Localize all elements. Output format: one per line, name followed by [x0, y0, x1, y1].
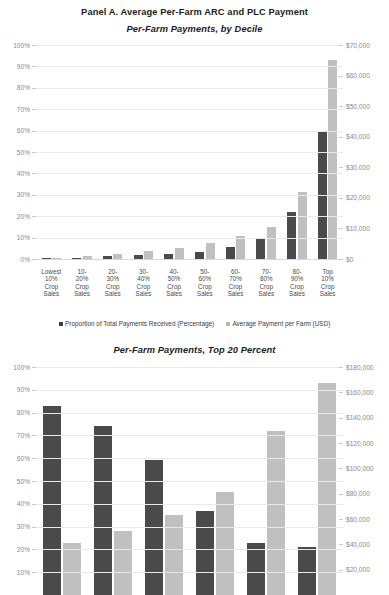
x-axis-category-line: 80%	[251, 275, 282, 282]
x-axis-category-line: Crop	[282, 283, 313, 290]
y-axis-tick-mark	[32, 45, 36, 46]
x-axis-category-line: Sales	[190, 290, 221, 297]
y2-axis-tick-label: $120,000	[346, 440, 389, 447]
y2-axis-tick-label: $50,000	[346, 103, 389, 110]
x-axis-category-line: Crop	[97, 283, 128, 290]
y2-axis-tick-label: $20,000	[346, 194, 389, 201]
gridline	[36, 173, 343, 174]
x-axis-category-line: Sales	[220, 290, 251, 297]
x-axis-category-line: Crop	[251, 283, 282, 290]
x-axis-category-line: 60-	[220, 268, 251, 275]
x-axis-category-line: Sales	[282, 290, 313, 297]
y2-axis-tick-mark	[339, 167, 343, 168]
y2-axis-tick-label: $60,000	[346, 72, 389, 79]
y2-axis-tick-mark	[339, 45, 343, 46]
x-axis-category-line: 20-	[97, 268, 128, 275]
y-axis-tick-label: 10%	[0, 234, 30, 241]
x-axis-category-line: Crop	[36, 283, 67, 290]
x-axis-category-line: Crop	[159, 283, 190, 290]
y-axis-tick-mark	[32, 572, 36, 573]
gridline	[36, 390, 343, 391]
y-axis-tick-mark	[32, 88, 36, 89]
gridline	[36, 527, 343, 528]
legend-swatch-light-icon	[226, 322, 230, 326]
bar-average-payment	[175, 248, 184, 259]
y2-axis-tick-mark	[339, 494, 343, 495]
y-axis-tick-mark	[32, 435, 36, 436]
bar-proportion	[226, 247, 235, 259]
y2-axis-tick-label: $20,000	[346, 566, 389, 573]
y2-axis-tick-label: $100,000	[346, 465, 389, 472]
y-axis-tick-label: 50%	[0, 478, 30, 485]
bar-group	[138, 362, 189, 587]
y2-axis-tick-label: $140,000	[346, 414, 389, 421]
x-axis-category-line: Sales	[67, 290, 98, 297]
y-axis-tick-label: 70%	[0, 106, 30, 113]
x-axis-category-line: 50%	[159, 275, 190, 282]
y-axis-tick-mark	[32, 131, 36, 132]
x-axis-category-line: Crop	[190, 283, 221, 290]
x-axis-category-line: 40-	[159, 268, 190, 275]
x-axis-category-label: 60-70%CropSales	[220, 268, 251, 298]
x-axis-category-label: 80-90%CropSales	[282, 268, 313, 298]
bar-average-payment	[267, 227, 276, 259]
y-axis-tick-mark	[32, 152, 36, 153]
legend-label-average-payment: Average Payment per Farm (USD)	[232, 320, 330, 327]
y-axis-tick-mark	[32, 390, 36, 391]
y-axis-tick-label: 40%	[0, 500, 30, 507]
y2-axis-tick-label: $180,000	[346, 364, 389, 371]
x-axis-category-label: 40-50%CropSales	[159, 268, 190, 298]
y-axis-tick-label: 100%	[0, 42, 30, 49]
bar-proportion	[94, 426, 112, 595]
x-axis-category-line: Sales	[128, 290, 159, 297]
y2-axis-tick-mark	[339, 106, 343, 107]
bar-group	[190, 362, 241, 587]
y-axis-tick-label: 60%	[0, 127, 30, 134]
y2-axis-tick-mark	[339, 137, 343, 138]
bar-proportion	[196, 511, 214, 595]
bar-average-payment	[216, 492, 234, 595]
x-axis-category-line: Sales	[251, 290, 282, 297]
gridline	[36, 549, 343, 550]
bar-group	[87, 362, 138, 587]
y2-axis-tick-mark	[339, 259, 343, 260]
y-axis-tick-mark	[32, 259, 36, 260]
legend-label-proportion: Proportion of Total Payments Received (P…	[65, 320, 214, 327]
gridline	[36, 458, 343, 459]
y-axis-tick-mark	[32, 66, 36, 67]
y-axis-tick-label: 50%	[0, 149, 30, 156]
y2-axis-tick-label: $40,000	[346, 133, 389, 140]
bar-average-payment	[144, 251, 153, 259]
bar-proportion	[247, 543, 265, 595]
bar-group	[36, 362, 87, 587]
bar-average-payment	[267, 431, 285, 595]
x-axis-category-line: 70%	[220, 275, 251, 282]
x-axis-category-line: 60%	[190, 275, 221, 282]
gridline	[36, 66, 343, 67]
y-axis-tick-label: 40%	[0, 170, 30, 177]
bar-average-payment	[298, 192, 307, 259]
bar-average-payment	[114, 531, 132, 595]
bar-group	[292, 362, 343, 587]
x-axis-category-line: 40%	[128, 275, 159, 282]
bar-proportion	[43, 406, 61, 595]
y-axis-tick-label: 60%	[0, 455, 30, 462]
y2-axis-tick-label: $80,000	[346, 490, 389, 497]
y-axis-tick-mark	[32, 238, 36, 239]
bar-group-container-bottom	[36, 362, 343, 587]
x-axis-category-line: Sales	[312, 290, 343, 297]
gridline	[36, 152, 343, 153]
gridline	[36, 413, 343, 414]
chart-legend: Proportion of Total Payments Received (P…	[0, 320, 389, 327]
x-axis-category-label: 30-40%CropSales	[128, 268, 159, 298]
bar-average-payment	[318, 383, 336, 595]
x-axis-category-line: 10%	[312, 275, 343, 282]
bar-average-payment	[328, 60, 337, 259]
x-axis-category-line: 80-	[282, 268, 313, 275]
y-axis-tick-label: 30%	[0, 523, 30, 530]
x-axis-category-line: Lowest	[36, 268, 67, 275]
x-axis-category-line: Top	[312, 268, 343, 275]
chart-title-bottom: Per-Farm Payments, Top 20 Percent	[0, 345, 389, 355]
gridline	[36, 367, 343, 368]
y-axis-tick-mark	[32, 367, 36, 368]
